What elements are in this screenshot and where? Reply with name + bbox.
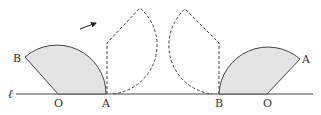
- left-dashed-sector: [107, 8, 157, 94]
- left-label-O: O: [54, 97, 63, 110]
- right-sector: [219, 47, 300, 94]
- line-l-label: ℓ: [8, 87, 13, 101]
- diagram-canvas: ℓ B O A B O A: [0, 0, 321, 115]
- rotation-arrow: [80, 23, 96, 29]
- right-label-A: A: [301, 53, 311, 66]
- right-dashed-sector: [169, 9, 219, 94]
- right-label-O: O: [263, 97, 272, 110]
- right-label-B: B: [215, 97, 223, 110]
- left-label-B: B: [13, 52, 21, 65]
- left-sector: [25, 45, 106, 94]
- left-label-A: A: [101, 97, 111, 110]
